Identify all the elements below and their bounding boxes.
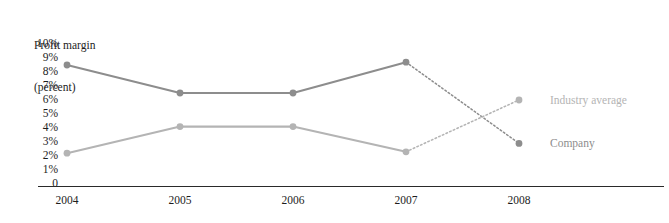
series-segment <box>293 127 406 152</box>
series-segment <box>293 62 406 93</box>
data-point-marker <box>177 90 184 97</box>
data-point-marker <box>516 97 523 104</box>
series-segment <box>67 65 180 93</box>
data-point-marker <box>290 123 297 130</box>
x-tick-label: 2004 <box>56 194 79 207</box>
series-segment <box>406 62 519 143</box>
data-point-marker <box>177 123 184 130</box>
data-point-marker <box>403 148 410 155</box>
series-label-industry-average: Industry average <box>550 94 627 106</box>
x-tick-label: 2008 <box>508 194 531 207</box>
data-point-marker <box>403 59 410 66</box>
plot-area <box>0 0 669 223</box>
x-tick-label: 2005 <box>169 194 192 207</box>
data-point-marker <box>64 62 71 69</box>
series-company <box>64 59 523 147</box>
profit-margin-line-chart: Profit margin (percent) 10%9%8%7%6%5%4%3… <box>0 0 669 223</box>
data-point-marker <box>516 140 523 147</box>
series-segment <box>67 127 180 154</box>
x-tick-label: 2007 <box>395 194 418 207</box>
series-segment <box>406 100 519 152</box>
data-point-marker <box>64 150 71 157</box>
series-label-company: Company <box>550 137 595 149</box>
x-axis-line <box>38 186 664 187</box>
x-axis-tick-labels: 20042005200620072008 <box>0 194 669 214</box>
series-industry-average <box>64 97 523 157</box>
x-tick-label: 2006 <box>282 194 305 207</box>
data-point-marker <box>290 90 297 97</box>
